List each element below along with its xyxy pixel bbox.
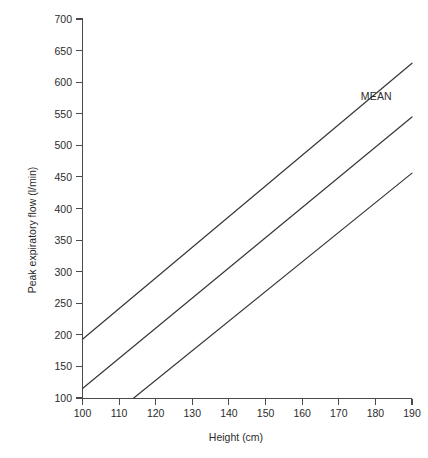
y-tick-label: 250: [54, 297, 72, 309]
y-tick-label: 600: [54, 76, 72, 88]
x-tick-label: 170: [330, 407, 348, 419]
y-tick-label: 350: [54, 234, 72, 246]
x-tick-label: 120: [147, 407, 165, 419]
x-tick-label: 110: [111, 407, 128, 419]
series-line-upper-limit: [83, 63, 413, 339]
x-axis-ticks: [83, 399, 413, 406]
data-series-group: [83, 63, 413, 398]
series-annotation-mean: MEAN: [361, 90, 392, 102]
y-tick-label: 700: [54, 13, 72, 25]
x-tick-label: 100: [74, 407, 92, 419]
x-axis-tick-labels: 100 110 120 130 140 150 160 170 180 190: [74, 407, 421, 419]
y-tick-label: 400: [54, 203, 72, 215]
y-tick-label: 550: [54, 108, 72, 120]
y-axis-title: Peak expiratory flow (l/min): [26, 167, 38, 294]
x-axis-title: Height (cm): [209, 431, 263, 443]
x-tick-label: 130: [184, 407, 202, 419]
y-tick-label: 150: [54, 360, 72, 372]
y-tick-label: 500: [54, 139, 72, 151]
series-line-mean: [83, 117, 413, 389]
y-tick-label: 300: [54, 266, 72, 278]
chart-svg: 700 650 600 550 500 450 400 350 300 250 …: [0, 0, 428, 458]
x-tick-label: 150: [257, 407, 275, 419]
x-tick-label: 190: [403, 407, 421, 419]
y-tick-label: 200: [54, 329, 72, 341]
y-axis-ticks: [76, 19, 83, 398]
peak-expiratory-flow-chart: 700 650 600 550 500 450 400 350 300 250 …: [0, 0, 428, 458]
x-tick-label: 180: [367, 407, 385, 419]
y-tick-label: 650: [54, 45, 72, 57]
y-tick-label: 450: [54, 171, 72, 183]
x-tick-label: 140: [220, 407, 238, 419]
y-tick-label: 100: [54, 392, 72, 404]
series-annotations-group: MEAN: [361, 90, 392, 102]
y-axis-tick-labels: 700 650 600 550 500 450 400 350 300 250 …: [54, 13, 72, 404]
x-tick-label: 160: [293, 407, 311, 419]
series-line-lower-limit: [134, 173, 412, 398]
